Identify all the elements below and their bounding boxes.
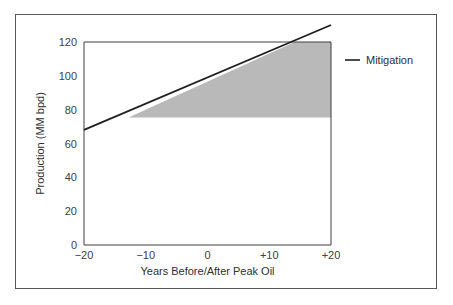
x-tick-label: −20 (75, 249, 94, 261)
x-axis-tick-labels: −20 −10 0 +10 +20 (75, 249, 341, 261)
chart-svg: 120 100 80 60 40 20 0 −20 −10 0 +10 +20 … (0, 0, 453, 305)
y-axis-title: Production (MM bpd) (34, 92, 46, 195)
legend: Mitigation (345, 54, 413, 66)
mitigation-gap-shading (129, 26, 332, 118)
figure-root: 120 100 80 60 40 20 0 −20 −10 0 +10 +20 … (0, 0, 453, 305)
x-tick-label: 0 (204, 249, 210, 261)
x-tick-label: −10 (136, 249, 155, 261)
x-tick-label: +10 (260, 249, 279, 261)
x-axis-title: Years Before/After Peak Oil (140, 265, 274, 277)
y-tick-label: 120 (59, 36, 77, 48)
x-tick-label: +20 (322, 249, 341, 261)
y-tick-label: 100 (59, 70, 77, 82)
shaded-region-group (129, 26, 332, 118)
y-axis-tick-labels: 120 100 80 60 40 20 0 (59, 36, 77, 251)
y-tick-label: 20 (65, 205, 77, 217)
legend-label-mitigation: Mitigation (366, 54, 413, 66)
y-tick-label: 60 (65, 138, 77, 150)
y-tick-label: 80 (65, 104, 77, 116)
y-tick-label: 40 (65, 171, 77, 183)
